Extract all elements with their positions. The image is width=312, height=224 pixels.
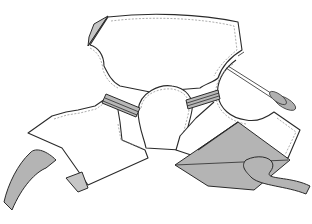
pattern-diagram <box>0 0 312 224</box>
scissors <box>226 52 298 113</box>
